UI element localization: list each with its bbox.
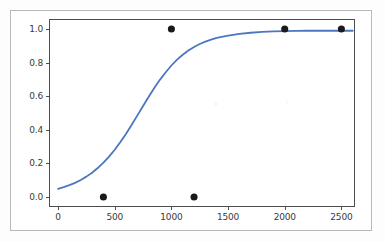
y-tick-mark bbox=[46, 197, 49, 198]
scatter-point bbox=[191, 193, 198, 200]
x-tick-mark bbox=[58, 207, 59, 210]
y-tick-label: 0.8 bbox=[29, 58, 43, 68]
y-tick-label: 0.2 bbox=[29, 158, 43, 168]
x-tick-mark bbox=[341, 207, 342, 210]
plot-canvas bbox=[49, 19, 355, 207]
scan-speckle bbox=[46, 64, 47, 65]
y-tick-label: 1.0 bbox=[29, 24, 43, 34]
x-tick-label: 0 bbox=[55, 212, 61, 222]
y-tick-mark bbox=[46, 29, 49, 30]
x-tick-mark bbox=[115, 207, 116, 210]
x-tick-label: 1500 bbox=[217, 212, 239, 222]
y-tick-label: 0.0 bbox=[29, 192, 43, 202]
x-tick-mark bbox=[285, 207, 286, 210]
y-tick-label: 0.6 bbox=[29, 91, 43, 101]
x-tick-label: 500 bbox=[106, 212, 123, 222]
y-tick-mark bbox=[46, 96, 49, 97]
scatter-point bbox=[281, 26, 288, 33]
x-tick-mark bbox=[171, 207, 172, 210]
y-tick-mark bbox=[46, 130, 49, 131]
y-tick-label: 0.4 bbox=[29, 125, 43, 135]
scatter-point bbox=[338, 26, 345, 33]
x-tick-label: 2500 bbox=[330, 212, 352, 222]
scanned-page-background: · · · 050010001500200025000.00.20.40.60.… bbox=[0, 0, 385, 242]
chart-figure: 050010001500200025000.00.20.40.60.81.0 bbox=[0, 0, 385, 242]
y-tick-mark bbox=[46, 163, 49, 164]
logistic-curve bbox=[58, 31, 353, 189]
scatter-point bbox=[100, 193, 107, 200]
x-tick-label: 1000 bbox=[160, 212, 182, 222]
line-series-group bbox=[58, 31, 353, 189]
scatter-series-group bbox=[100, 26, 345, 201]
x-tick-label: 2000 bbox=[274, 212, 296, 222]
scatter-point bbox=[168, 26, 175, 33]
x-tick-mark bbox=[228, 207, 229, 210]
scan-speckle bbox=[286, 102, 288, 103]
scan-speckle bbox=[215, 103, 217, 105]
